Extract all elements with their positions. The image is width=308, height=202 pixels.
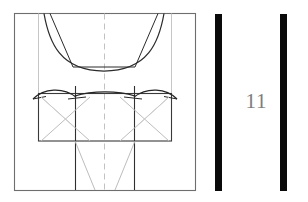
figure-label-panel: 11 [205, 0, 308, 202]
page-root: 11 [0, 0, 308, 202]
taper-right [115, 141, 135, 190]
figure-panel [0, 0, 205, 202]
taper-left [75, 141, 95, 190]
arch-tail-mid-right [124, 97, 142, 99]
taper-upper-left [41, 97, 75, 128]
arch-tail-mid-left [68, 97, 86, 99]
taper-upper-right [135, 97, 169, 128]
figure-number-label: 11 [205, 0, 308, 202]
technical-drawing-svg [0, 0, 205, 202]
